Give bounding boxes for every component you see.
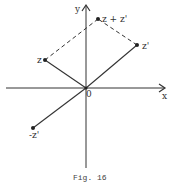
vector-neg-z-prime [33, 88, 86, 128]
dashed-side-z-to-sum [45, 19, 98, 60]
x-axis-label: x [162, 91, 167, 101]
point-z-prime [135, 43, 139, 47]
label-z-sum: z + z' [102, 14, 127, 24]
vector-addition-diagram: y x 0 z z' z + z' -z' Fig. 16 [0, 0, 171, 188]
point-z-sum [96, 17, 100, 21]
figure-caption: Fig. 16 [73, 173, 107, 182]
vector-z-prime [86, 45, 137, 88]
vector-z [45, 60, 86, 88]
y-axis-label: y [74, 4, 81, 14]
point-z [43, 58, 47, 62]
diagram-svg: y x 0 z z' z + z' -z' Fig. 16 [0, 0, 171, 188]
label-neg-z-prime: -z' [29, 130, 39, 140]
origin-label: 0 [86, 89, 92, 99]
label-z-prime: z' [142, 41, 149, 51]
label-z: z [37, 55, 42, 65]
